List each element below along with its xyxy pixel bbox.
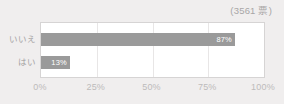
gridline-75-percent — [208, 23, 209, 77]
bar-row-yes: 13% — [41, 56, 70, 69]
x-tick-label: 75% — [198, 82, 217, 92]
bar-yes: 13% — [41, 56, 70, 69]
bar-value-yes: 13% — [51, 58, 70, 67]
x-tick-label: 25% — [86, 82, 105, 92]
bar-value-no: 87% — [216, 35, 235, 44]
poll-result-chart: (3561 票) いいえ はい 87% 13% 0%25%50%75%100% — [0, 0, 284, 104]
total-votes-label: (3561 票) — [230, 3, 272, 17]
x-tick-label: 50% — [142, 82, 161, 92]
x-tick-label: 0% — [33, 82, 46, 92]
gridline-25-percent — [97, 23, 98, 77]
category-label-no: いいえ — [0, 32, 36, 44]
gridline-50-percent — [153, 23, 154, 77]
plot-area: 87% 13% — [40, 22, 265, 78]
x-tick-label: 100% — [251, 82, 275, 92]
bar-no: 87% — [41, 33, 235, 46]
bar-row-no: 87% — [41, 33, 235, 46]
category-label-yes: はい — [0, 55, 36, 67]
